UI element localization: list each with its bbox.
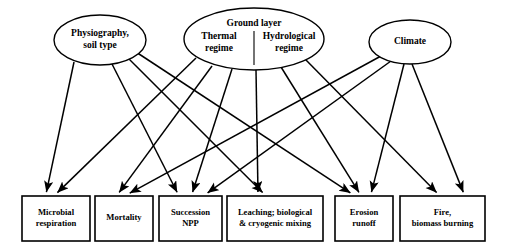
process-node-mortality[interactable]: Mortality xyxy=(95,196,153,241)
process-node-erosion-runoff[interactable]: Erosionrunoff xyxy=(335,196,393,241)
label-succession-npp-line-1: NPP xyxy=(182,218,199,228)
label-mortality-line-0: Mortality xyxy=(106,212,142,222)
process-node-leaching-mixing[interactable]: Leaching; biological& cryogenic mixing xyxy=(227,196,323,241)
label-ground-layer-left-line-1: regime xyxy=(205,43,233,53)
label-climate-line-0: Climate xyxy=(394,36,426,46)
label-physiography-line-0: Physiography, xyxy=(71,28,129,38)
label-leaching-mixing-line-0: Leaching; biological xyxy=(238,207,313,217)
edge-climate-to-erosion-runoff xyxy=(371,64,404,192)
edge-ground-layer-to-leaching-mixing xyxy=(256,70,258,192)
edge-physiography-to-microbial-respiration xyxy=(46,62,74,192)
diagram-canvas: Physiography,soil typeGround layerTherma… xyxy=(0,0,509,247)
label-fire-biomass-burning-line-0: Fire, xyxy=(434,207,451,217)
edge-climate-to-succession-npp xyxy=(208,61,391,193)
label-leaching-mixing-line-1: & cryogenic mixing xyxy=(239,218,312,228)
label-ground-layer-heading: Ground layer xyxy=(227,18,283,28)
process-node-fire-biomass-burning[interactable]: Fire,biomass burning xyxy=(400,196,485,241)
edge-climate-to-fire-biomass-burning xyxy=(412,64,463,192)
label-ground-layer-left-line-0: Thermal xyxy=(201,31,237,41)
driver-node-physiography[interactable]: Physiography,soil type xyxy=(54,15,146,65)
influence-diagram: Physiography,soil typeGround layerTherma… xyxy=(0,0,509,247)
label-fire-biomass-burning-line-1: biomass burning xyxy=(412,218,474,228)
label-microbial-respiration-line-0: Microbial xyxy=(38,207,75,217)
label-ground-layer-right-line-0: Hydrological xyxy=(263,31,316,41)
edge-ground-layer-to-fire-biomass-burning xyxy=(305,59,437,193)
label-erosion-runoff-line-0: Erosion xyxy=(350,207,379,217)
nodes-layer: Physiography,soil typeGround layerTherma… xyxy=(22,8,485,241)
label-succession-npp-line-0: Succession xyxy=(171,207,210,217)
edge-ground-layer-to-succession-npp xyxy=(193,69,232,192)
label-erosion-runoff-line-1: runoff xyxy=(352,218,376,228)
process-node-succession-npp[interactable]: SuccessionNPP xyxy=(159,196,222,241)
driver-node-climate[interactable]: Climate xyxy=(369,20,451,64)
edge-physiography-to-leaching-mixing xyxy=(128,58,263,193)
label-microbial-respiration-line-1: respiration xyxy=(36,218,77,228)
edge-ground-layer-to-microbial-respiration xyxy=(57,58,196,193)
driver-node-ground-layer[interactable]: Ground layerThermalregimeHydrologicalreg… xyxy=(184,8,324,70)
edges-layer xyxy=(46,52,463,193)
label-physiography-line-1: soil type xyxy=(83,40,117,50)
process-node-microbial-respiration[interactable]: Microbialrespiration xyxy=(22,196,90,241)
label-ground-layer-right-line-1: regime xyxy=(275,43,303,53)
